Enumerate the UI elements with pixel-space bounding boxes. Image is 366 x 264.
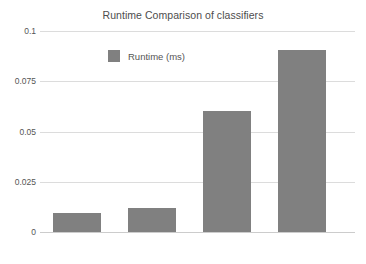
- y-tick-label: 0: [0, 227, 41, 237]
- x-axis-line: [40, 232, 355, 233]
- y-tick-label: 0.05: [0, 127, 41, 137]
- bar-slot: [190, 31, 265, 232]
- bar[interactable]: [278, 50, 326, 232]
- bar[interactable]: [203, 111, 251, 232]
- legend-label-runtime: Runtime (ms): [128, 51, 185, 62]
- chart-title: Runtime Comparison of classifiers: [0, 9, 366, 21]
- bar-slot: [40, 31, 115, 232]
- y-tick-label: 0.025: [0, 177, 41, 187]
- bar-slot: [265, 31, 340, 232]
- bar-chart: Runtime Comparison of classifiers 00.025…: [0, 0, 366, 264]
- legend-swatch-runtime: [108, 50, 120, 62]
- y-tick-label: 0.1: [0, 26, 41, 36]
- chart-legend: Runtime (ms): [108, 50, 185, 62]
- y-tick-label: 0.075: [0, 76, 41, 86]
- bar[interactable]: [128, 208, 176, 232]
- bar-series-runtime: [40, 31, 355, 232]
- bar[interactable]: [53, 213, 101, 232]
- plot-area: 00.0250.050.0750.1 SVMSVM + HOGVanilla N…: [40, 31, 355, 232]
